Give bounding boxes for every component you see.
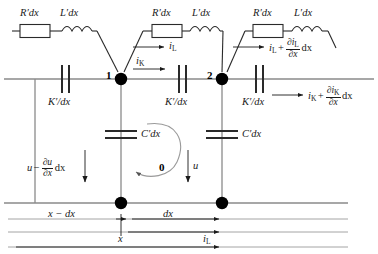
iL-out-numerator-subscript: L bbox=[294, 40, 299, 49]
iL-out-dx: dx bbox=[301, 42, 312, 53]
label-resistor-3: R′dx bbox=[253, 8, 272, 19]
label-inductor-2: L′dx bbox=[192, 8, 210, 19]
iK-out-numerator-subscript: K bbox=[334, 88, 339, 97]
iK-subscript: K bbox=[139, 59, 144, 68]
label-capacitor-K-mid: K′/dx bbox=[165, 97, 187, 108]
iL-out-denominator: ∂x bbox=[286, 49, 300, 60]
series-branch-1 bbox=[12, 25, 118, 73]
iK-out-denominator: ∂x bbox=[326, 97, 341, 108]
u-left-dx: dx bbox=[55, 162, 66, 173]
iK-out-plus: + bbox=[318, 90, 324, 101]
node-dot-bottom-2 bbox=[216, 197, 228, 209]
label-current-iL-out: iL+∂iL∂xdx bbox=[269, 38, 312, 59]
iL-out-subscript: L bbox=[272, 46, 277, 55]
iK-out-subscript: K bbox=[311, 94, 316, 103]
label-resistor-2: R′dx bbox=[152, 8, 171, 19]
iK-out-dx: dx bbox=[342, 90, 353, 101]
label-span-dx: dx bbox=[163, 209, 173, 220]
iL-bottom-subscript: L bbox=[206, 237, 211, 246]
iK-out-numerator: ∂i bbox=[327, 85, 334, 95]
label-node-1: 1 bbox=[106, 70, 112, 81]
label-span-x-minus-dx: x − dx bbox=[48, 209, 75, 220]
label-inductor-1: L′dx bbox=[60, 8, 78, 19]
u-left-denominator: ∂x bbox=[42, 168, 53, 179]
label-span-x: x bbox=[118, 234, 123, 245]
node-dot-1 bbox=[115, 73, 127, 85]
label-voltage-u-left: u−∂u∂xdx bbox=[27, 158, 65, 179]
label-capacitor-C-right: C′dx bbox=[242, 129, 261, 140]
label-inductor-3: L′dx bbox=[294, 8, 312, 19]
iL-out-plus: + bbox=[278, 42, 284, 53]
label-loop-0: 0 bbox=[159, 162, 165, 173]
label-voltage-u-right: u bbox=[193, 161, 198, 172]
u-left-base: u bbox=[27, 162, 32, 173]
label-capacitor-C-left: C′dx bbox=[141, 129, 160, 140]
label-current-iK: iK bbox=[136, 56, 144, 67]
iL-subscript: L bbox=[172, 44, 177, 53]
label-resistor-1: R′dx bbox=[20, 8, 39, 19]
u-left-fraction: ∂u∂x bbox=[42, 158, 53, 179]
iL-out-fraction: ∂iL∂x bbox=[286, 38, 300, 59]
label-node-2: 2 bbox=[207, 70, 213, 81]
node-dot-2 bbox=[216, 73, 228, 85]
u-left-minus: − bbox=[34, 162, 40, 173]
iK-out-fraction: ∂iK∂x bbox=[326, 86, 341, 107]
label-current-iK-out: iK+∂iK∂xdx bbox=[308, 86, 353, 107]
node-dot-bottom-1 bbox=[115, 197, 127, 209]
label-capacitor-K-right: K′/dx bbox=[242, 97, 264, 108]
circuit-diagram: R′dx L′dx R′dx L′dx R′dx L′dx K′/dx K′/d… bbox=[0, 0, 378, 254]
label-capacitor-K-left: K′/dx bbox=[48, 97, 70, 108]
label-current-iL: iL bbox=[169, 41, 177, 52]
u-left-numerator: ∂u bbox=[42, 158, 53, 168]
label-current-iL-bottom: iL bbox=[203, 234, 211, 245]
